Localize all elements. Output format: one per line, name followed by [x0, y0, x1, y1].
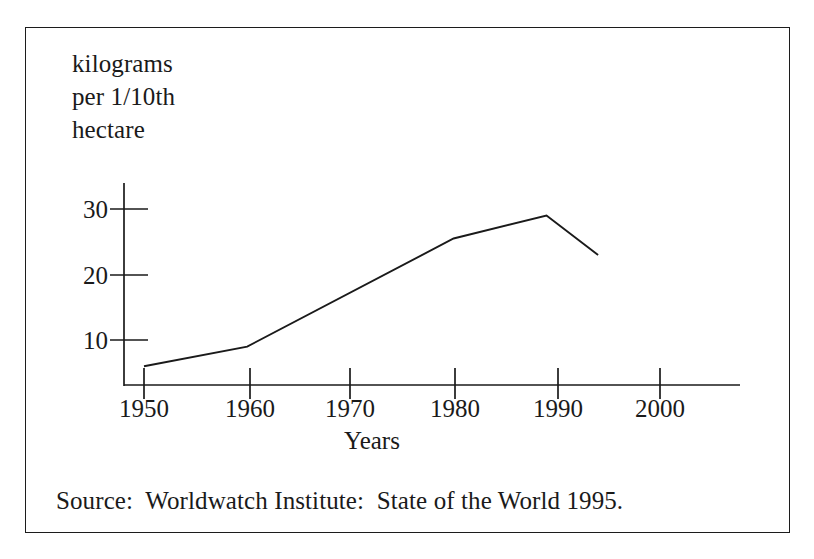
- line-chart-plot: [0, 0, 814, 559]
- y-tick-label-20: 20: [48, 263, 108, 288]
- x-tick-label-1950: 1950: [99, 396, 189, 421]
- data-line-series: [144, 216, 598, 367]
- x-tick-label-1960: 1960: [205, 396, 295, 421]
- x-axis-title: Years: [322, 427, 422, 455]
- x-tick-label-1980: 1980: [410, 396, 500, 421]
- y-tick-label-10: 10: [48, 328, 108, 353]
- source-note: Source: Worldwatch Institute: State of t…: [56, 487, 623, 515]
- x-tick-label-1970: 1970: [305, 396, 395, 421]
- figure-container: kilograms per 1/10th hectare 30 20 10 19: [0, 0, 814, 559]
- x-tick-label-1990: 1990: [513, 396, 603, 421]
- y-axis-ticks: [110, 209, 148, 340]
- y-tick-label-30: 30: [48, 197, 108, 222]
- x-tick-label-2000: 2000: [615, 396, 705, 421]
